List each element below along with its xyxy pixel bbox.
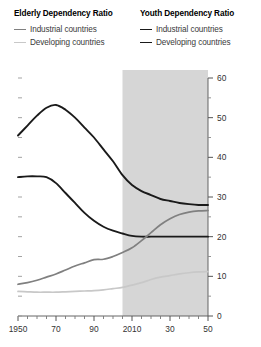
legend-group-title: Youth Dependency Ratio: [140, 8, 261, 19]
legend-swatch-icon: [14, 42, 26, 43]
x-tick-label: 1950: [9, 324, 28, 334]
plot-svg: 0102030405060 1950709020103050: [0, 62, 261, 347]
y-tick-label: 0: [217, 311, 222, 321]
x-tick-label: 2010: [123, 324, 142, 334]
x-tick-label: 50: [203, 324, 213, 334]
legend-item-label: Developing countries: [30, 38, 104, 47]
x-tick-label: 90: [89, 324, 99, 334]
y-axis-tick-labels: 0102030405060: [217, 73, 227, 321]
x-tick-label: 70: [51, 324, 61, 334]
legend-item-label: Industrial countries: [156, 25, 223, 34]
y-tick-label: 30: [217, 192, 227, 202]
chart-legend: Elderly Dependency Ratio Industrial coun…: [0, 8, 261, 60]
y-tick-label: 20: [217, 232, 227, 242]
legend-swatch-icon: [140, 29, 152, 30]
legend-item-elderly-developing: Developing countries: [14, 36, 140, 49]
legend-group-youth: Youth Dependency Ratio Industrial countr…: [140, 8, 261, 49]
y-tick-label: 50: [217, 113, 227, 123]
legend-item-elderly-industrial: Industrial countries: [14, 23, 140, 36]
x-tick-label: 30: [165, 324, 175, 334]
projection-band: [123, 70, 209, 316]
legend-group-title: Elderly Dependency Ratio: [14, 8, 140, 19]
x-axis: [18, 316, 208, 321]
legend-item-youth-industrial: Industrial countries: [140, 23, 261, 36]
dependency-ratio-chart: Elderly Dependency Ratio Industrial coun…: [0, 0, 261, 347]
legend-group-elderly: Elderly Dependency Ratio Industrial coun…: [14, 8, 140, 49]
projection-shading: [123, 70, 209, 316]
y-tick-label: 60: [217, 73, 227, 83]
y-tick-label: 10: [217, 271, 227, 281]
legend-swatch-icon: [14, 29, 26, 30]
plot-area: 0102030405060 1950709020103050: [0, 62, 261, 347]
x-axis-tick-labels: 1950709020103050: [9, 324, 213, 334]
legend-swatch-icon: [140, 42, 152, 43]
legend-item-label: Developing countries: [156, 38, 230, 47]
legend-item-label: Industrial countries: [30, 25, 97, 34]
legend-item-youth-developing: Developing countries: [140, 36, 261, 49]
y-tick-label: 40: [217, 152, 227, 162]
